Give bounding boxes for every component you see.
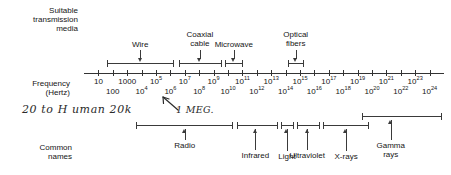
media-band-cap-right <box>173 60 174 67</box>
name-band-cap-right <box>277 122 278 129</box>
name-band-label-line: Infrared <box>242 151 270 160</box>
media-band-label-line: cable <box>187 39 214 48</box>
axis-title-line-1: Frequency <box>32 79 70 88</box>
axis-tick-label-base: 10 <box>422 87 431 96</box>
media-band-bar <box>179 63 221 64</box>
axis-tick <box>343 70 344 76</box>
axis-tick-label-base: 10 <box>408 77 417 86</box>
name-band-label-line: Radio <box>174 141 195 150</box>
axis-tick-label: 1000 <box>118 77 136 86</box>
axis-tick-label-exponent: 11 <box>244 75 250 81</box>
name-band-label: Ultraviolet <box>289 151 325 160</box>
axis-tick-label-base: 10 <box>321 77 330 86</box>
media-band-cap-left <box>288 60 289 67</box>
axis-tick-label: 1019 <box>350 77 365 86</box>
em-spectrum-figure: Suitable transmission media Frequency (H… <box>0 0 451 175</box>
name-band-arrowhead-icon <box>284 129 288 133</box>
name-band-arrowhead-icon <box>388 120 392 124</box>
axis-row-title: Frequency (Hertz) <box>32 79 70 97</box>
axis-tick-label: 1021 <box>379 77 394 86</box>
media-band-label: Opticalfibers <box>283 30 308 48</box>
name-band-bar <box>297 125 319 126</box>
axis-tick <box>430 70 431 76</box>
name-band-cap-right <box>319 122 320 129</box>
axis-tick-label-base: 10 <box>364 87 373 96</box>
name-band-cap-right <box>441 113 442 120</box>
axis-tick <box>228 70 229 76</box>
name-band-label-line: Gamma <box>376 141 404 150</box>
axis-tick-label-exponent: 12 <box>258 85 264 91</box>
name-band-arrowhead-icon <box>305 129 309 133</box>
name-band-arrowhead-icon <box>182 129 186 133</box>
axis-tick-label: 1013 <box>264 77 279 86</box>
axis-tick-label-base: 10 <box>220 87 229 96</box>
axis-tick-label-base: 10 <box>193 87 202 96</box>
axis-tick-label: 109 <box>208 77 220 86</box>
axis-tick-label-exponent: 9 <box>216 75 219 81</box>
axis-tick-label: 1024 <box>422 87 437 96</box>
axis-tick-label-base: 10 <box>249 87 258 96</box>
media-band-cap-left <box>107 60 108 67</box>
name-band-label-line: Ultraviolet <box>289 151 325 160</box>
axis-tick-label: 10 <box>94 77 103 86</box>
media-band-arrowhead-icon <box>138 58 142 62</box>
axis-tick-label-base: 10 <box>379 77 388 86</box>
name-band-label-line: rays <box>376 150 404 159</box>
axis-tick-label-base: 10 <box>94 77 103 86</box>
annotation-one-megahertz: 1 MEG. <box>176 104 214 115</box>
name-band-cap-left <box>297 122 298 129</box>
media-row-title: Suitable transmission media <box>33 6 78 33</box>
names-title-line-1: Common <box>40 143 72 152</box>
axis-title-line-2: (Hertz) <box>32 88 70 97</box>
axis-tick-label-exponent: 10 <box>229 85 235 91</box>
annotation-audio-range: 20 to H uman 20k <box>22 103 132 116</box>
axis-tick-label-exponent: 24 <box>431 85 437 91</box>
axis-tick-label: 1022 <box>393 87 408 96</box>
frequency-axis-line <box>84 73 444 74</box>
axis-tick-label: 1017 <box>321 77 336 86</box>
axis-tick-label-base: 10 <box>336 87 345 96</box>
media-band-cap-left <box>225 60 226 67</box>
axis-tick-label: 1010 <box>220 87 235 96</box>
axis-tick-label-base: 10 <box>264 77 273 86</box>
axis-tick-label-exponent: 16 <box>316 85 322 91</box>
media-band-arrowhead-icon <box>293 58 297 62</box>
media-band-cap-right <box>221 60 222 67</box>
axis-tick-label-base: 10 <box>292 77 301 86</box>
axis-tick-label-exponent: 4 <box>144 85 147 91</box>
axis-tick-label-base: 10 <box>393 87 402 96</box>
media-band-bar <box>225 63 242 64</box>
axis-tick-label: 1015 <box>292 77 307 86</box>
axis-tick-label-exponent: 17 <box>330 75 336 81</box>
name-band-cap-left <box>237 122 238 129</box>
axis-tick <box>257 70 258 76</box>
name-band-cap-right <box>368 122 369 129</box>
axis-tick-label-exponent: 13 <box>273 75 279 81</box>
name-band-cap-left <box>362 113 363 120</box>
media-title-line-3: media <box>33 24 78 33</box>
axis-tick-label-exponent: 18 <box>345 85 351 91</box>
axis-tick-label-base: 10 <box>179 77 188 86</box>
name-band-cap-left <box>136 122 137 129</box>
media-title-line-2: transmission <box>33 15 78 24</box>
name-band-bar <box>237 125 277 126</box>
axis-tick-label: 1018 <box>336 87 351 96</box>
media-band-label: Coaxialcable <box>187 30 214 48</box>
axis-tick-label-exponent: 21 <box>388 75 394 81</box>
axis-tick <box>286 70 287 76</box>
axis-tick <box>199 70 200 76</box>
name-band-label: Infrared <box>242 151 270 160</box>
names-title-line-2: names <box>40 152 72 161</box>
axis-tick <box>156 70 157 76</box>
name-band-bar <box>323 125 368 126</box>
name-band-label: X-rays <box>335 152 358 161</box>
axis-tick-label-exponent: 14 <box>287 85 293 91</box>
media-band-label-line: Microwave <box>215 40 253 49</box>
media-band-bar <box>288 63 302 64</box>
media-band-label-line: Coaxial <box>187 30 214 39</box>
axis-tick-label: 1012 <box>249 87 264 96</box>
axis-tick-label-base: 10 <box>150 77 159 86</box>
axis-tick <box>127 70 128 76</box>
axis-tick <box>98 70 99 76</box>
axis-tick-label: 107 <box>179 77 191 86</box>
